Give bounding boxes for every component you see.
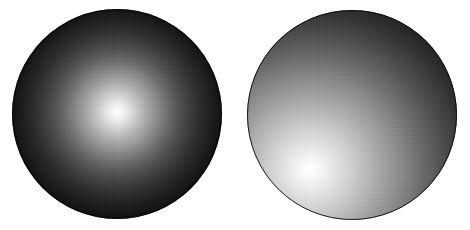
- figure-canvas: [0, 0, 470, 230]
- sphere-right: [247, 10, 457, 220]
- sphere-left: [12, 9, 222, 219]
- grain-overlay-right: [247, 10, 457, 220]
- grain-overlay-left: [12, 9, 222, 219]
